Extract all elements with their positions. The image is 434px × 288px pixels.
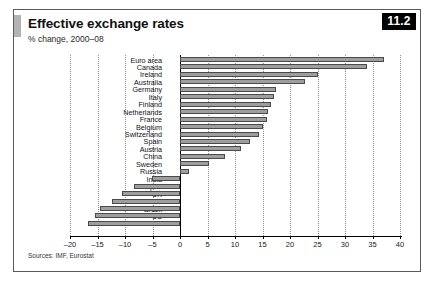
chart-figure: 11.2 Effective exchange rates % change, … [13, 9, 421, 272]
category-label-row: Germany [14, 86, 166, 93]
bar [100, 206, 180, 211]
bar [180, 132, 259, 137]
x-axis-tick-label: 5 [195, 240, 221, 249]
bar [180, 57, 384, 62]
bar [180, 146, 241, 151]
bar [180, 169, 189, 174]
grid-line [373, 55, 374, 236]
x-axis-tick-label: 20 [277, 240, 303, 249]
bar [152, 176, 180, 181]
bar [180, 139, 250, 144]
bar [95, 213, 180, 218]
source-note: Sources: IMF, Eurostat [28, 252, 94, 259]
x-axis-tick-label: –15 [85, 240, 111, 249]
x-axis-tick-label: 25 [305, 240, 331, 249]
bar [180, 64, 367, 69]
x-axis-tick-label: 35 [360, 240, 386, 249]
x-axis-tick-label: 15 [250, 240, 276, 249]
bar [180, 79, 305, 84]
category-label: Russia [14, 168, 166, 175]
category-label: Germany [14, 86, 166, 93]
bar [180, 117, 267, 122]
bar [180, 94, 274, 99]
bar [180, 102, 271, 107]
bar [180, 154, 225, 159]
bar [134, 184, 180, 189]
category-label-row: Russia [14, 168, 166, 175]
x-axis-tick-label: –20 [57, 240, 83, 249]
grid-line [318, 55, 319, 236]
plot-area: –20–15–10–50510152025303540Euro areaCana… [14, 10, 422, 273]
x-axis-tick-label: –5 [140, 240, 166, 249]
x-axis-tick-label: 40 [387, 240, 413, 249]
x-axis-tick-label: –10 [112, 240, 138, 249]
bar [180, 109, 268, 114]
bar [180, 72, 318, 77]
bar [88, 221, 180, 226]
x-axis-tick-label: 30 [332, 240, 358, 249]
bar [180, 87, 276, 92]
x-axis-tick-label: 0 [167, 240, 193, 249]
x-axis-tick-label: 10 [222, 240, 248, 249]
x-axis-line [70, 236, 402, 237]
bar [180, 124, 263, 129]
bar [112, 199, 180, 204]
grid-line [345, 55, 346, 236]
bar [180, 161, 209, 166]
grid-line [400, 55, 401, 236]
bar [122, 191, 180, 196]
